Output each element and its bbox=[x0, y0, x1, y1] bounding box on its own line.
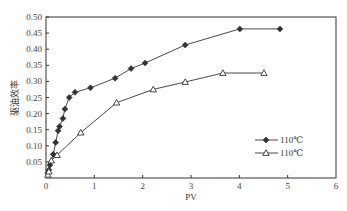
diamond-marker bbox=[87, 85, 93, 91]
x-axis-title: PV bbox=[185, 192, 197, 202]
diamond-marker bbox=[142, 60, 148, 66]
y-tick-label: 0.30 bbox=[26, 76, 42, 86]
x-axis-ticks: 0123456 bbox=[44, 175, 339, 191]
line-chart: 0123456 0.050.100.150.200.250.300.350.40… bbox=[0, 0, 347, 211]
series-line bbox=[48, 73, 264, 175]
y-tick-label: 0.35 bbox=[26, 60, 42, 70]
diamond-marker bbox=[112, 75, 118, 81]
x-tick-label: 1 bbox=[92, 181, 97, 191]
x-tick-label: 0 bbox=[44, 181, 49, 191]
diamond-marker bbox=[182, 42, 188, 48]
legend-item: 110℃ bbox=[255, 148, 303, 158]
diamond-marker bbox=[128, 66, 134, 72]
y-tick-label: 0.15 bbox=[26, 125, 42, 135]
y-tick-label: 0.10 bbox=[26, 141, 42, 151]
x-tick-label: 6 bbox=[334, 181, 339, 191]
x-tick-label: 4 bbox=[237, 181, 242, 191]
diamond-marker bbox=[62, 106, 68, 112]
series-1 bbox=[45, 26, 283, 176]
diamond-marker bbox=[237, 26, 243, 32]
legend-item: 110℃ bbox=[255, 135, 303, 145]
y-tick-label: 0.05 bbox=[26, 157, 42, 167]
y-tick-label: 0.40 bbox=[26, 44, 42, 54]
x-tick-label: 5 bbox=[285, 181, 290, 191]
series-2 bbox=[45, 70, 267, 177]
y-tick-label: 0.45 bbox=[26, 28, 42, 38]
series-layer bbox=[45, 26, 283, 177]
y-tick-label: 0.50 bbox=[26, 12, 42, 22]
diamond-marker bbox=[263, 137, 269, 143]
diamond-marker bbox=[277, 26, 283, 32]
y-tick-label: 0.20 bbox=[26, 109, 42, 119]
y-axis-title: 驱油效率 bbox=[9, 80, 20, 116]
series-line bbox=[48, 29, 280, 173]
diamond-marker bbox=[53, 140, 59, 146]
legend: 110℃110℃ bbox=[255, 135, 303, 158]
legend-label: 110℃ bbox=[280, 135, 303, 145]
diamond-marker bbox=[60, 115, 66, 121]
x-tick-label: 3 bbox=[189, 181, 194, 191]
y-tick-label: 0.25 bbox=[26, 93, 42, 103]
x-tick-label: 2 bbox=[140, 181, 145, 191]
legend-label: 110℃ bbox=[280, 148, 303, 158]
